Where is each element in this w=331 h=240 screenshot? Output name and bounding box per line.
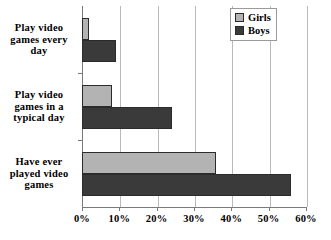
x-axis-tick-label: 0% (62, 213, 102, 224)
legend-item-girls: Girls (235, 11, 271, 24)
x-axis-tick (194, 207, 195, 211)
bar-boys-2 (82, 174, 291, 196)
category-label-line: games every (0, 34, 78, 46)
y-axis-category-label: Play videogames everyday (0, 22, 78, 57)
x-axis-tick (306, 207, 307, 211)
bar-boys-1 (82, 107, 172, 129)
y-axis-category-label: Have everplayed videogames (0, 156, 78, 191)
y-axis-category-tick (78, 73, 82, 74)
y-axis-category-tick (78, 140, 82, 141)
x-axis-tick-label: 60% (286, 213, 326, 224)
bar-girls-1 (82, 85, 112, 107)
x-axis-tick (157, 207, 158, 211)
x-axis-tick-label: 20% (137, 213, 177, 224)
bar-chart: 0%10%20%30%40%50%60% Play videogames eve… (0, 0, 331, 240)
category-label-line: played video (0, 168, 78, 180)
category-label-line: Play video (0, 89, 78, 101)
category-label-line: games (0, 179, 78, 191)
bar-girls-2 (82, 152, 216, 174)
x-axis-tick (231, 207, 232, 211)
x-axis-tick (82, 207, 83, 211)
legend-label-girls: Girls (248, 11, 271, 24)
legend: Girls Boys (230, 8, 277, 41)
category-label-line: Play video (0, 22, 78, 34)
gridline (307, 6, 308, 207)
x-axis-tick (119, 207, 120, 211)
category-label-line: typical day (0, 112, 78, 124)
category-label-line: Have ever (0, 156, 78, 168)
bar-girls-0 (82, 18, 89, 40)
y-axis-category-label: Play videogames in atypical day (0, 89, 78, 124)
bar-boys-0 (82, 40, 116, 62)
x-axis-tick (269, 207, 270, 211)
legend-item-boys: Boys (235, 24, 271, 37)
x-axis-tick-label: 40% (211, 213, 251, 224)
legend-label-boys: Boys (248, 24, 270, 37)
x-axis-tick-label: 30% (174, 213, 214, 224)
legend-swatch-boys-icon (235, 26, 244, 35)
x-axis-tick-label: 50% (249, 213, 289, 224)
x-axis-tick-label: 10% (99, 213, 139, 224)
category-label-line: games in a (0, 101, 78, 113)
legend-swatch-girls-icon (235, 13, 244, 22)
category-label-line: day (0, 45, 78, 57)
